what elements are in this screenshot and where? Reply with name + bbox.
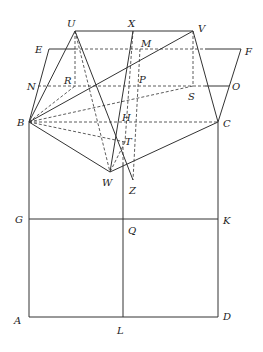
label-E: E xyxy=(34,44,43,55)
label-V: V xyxy=(198,23,207,34)
label-G: G xyxy=(15,214,23,225)
label-W: W xyxy=(102,177,113,188)
label-H: H xyxy=(121,112,131,123)
label-N: N xyxy=(26,81,37,92)
segment-V-C xyxy=(193,31,218,122)
label-F: F xyxy=(244,46,253,57)
geometry-diagram: U X V E M F N R P S O B H C T W Z G Q K … xyxy=(0,0,263,352)
label-X: X xyxy=(127,18,136,29)
label-A: A xyxy=(13,315,21,326)
label-D: D xyxy=(222,311,231,322)
label-U: U xyxy=(67,18,76,29)
segment-W-C xyxy=(110,122,218,172)
segment-B-W xyxy=(29,122,110,172)
dashed-lines xyxy=(29,31,218,180)
segment-X-T xyxy=(125,31,133,142)
label-R: R xyxy=(63,75,72,86)
label-O: O xyxy=(232,81,240,92)
label-M: M xyxy=(140,38,152,49)
segment-M-Z xyxy=(133,49,140,180)
label-B: B xyxy=(16,117,24,128)
segment-B-V xyxy=(29,31,193,122)
label-T: T xyxy=(125,136,133,147)
label-P: P xyxy=(138,74,146,85)
label-Z: Z xyxy=(128,185,137,196)
solid-lines xyxy=(29,31,241,317)
segment-U-W xyxy=(75,31,110,172)
label-C: C xyxy=(223,118,231,129)
segment-B-T xyxy=(29,122,125,142)
label-K: K xyxy=(222,215,231,226)
label-L: L xyxy=(116,325,124,336)
segment-B-R xyxy=(29,86,75,122)
label-Q: Q xyxy=(128,225,136,236)
label-S: S xyxy=(188,91,195,102)
point-labels: U X V E M F N R P S O B H C T W Z G Q K … xyxy=(13,18,253,336)
segment-B-S xyxy=(29,86,193,122)
